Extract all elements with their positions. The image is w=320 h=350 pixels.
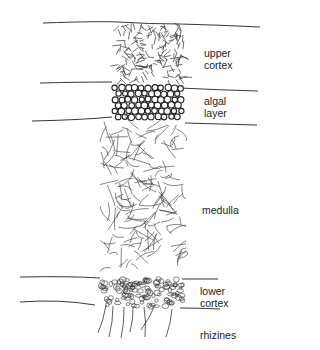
label-line: upper [204,47,233,59]
label-line: cortex [200,297,229,309]
label-line: algal [204,95,227,107]
label-line: layer [204,107,227,119]
rhizines-strands [98,305,172,338]
label-medulla: medulla [202,204,239,216]
label-rhizines: rhizines [200,329,236,341]
upper-cortex-hyphae [110,23,192,86]
label-line: lower [200,285,229,297]
medulla-hyphae [100,112,188,271]
lower-cortex-cells [98,277,185,310]
algal-cells [112,84,184,120]
label-line: medulla [202,204,239,216]
label-upper-cortex: upper cortex [204,47,233,71]
label-lower-cortex: lower cortex [200,285,229,309]
label-algal-layer: algal layer [204,95,227,119]
label-line: rhizines [200,329,236,341]
label-line: cortex [204,59,233,71]
